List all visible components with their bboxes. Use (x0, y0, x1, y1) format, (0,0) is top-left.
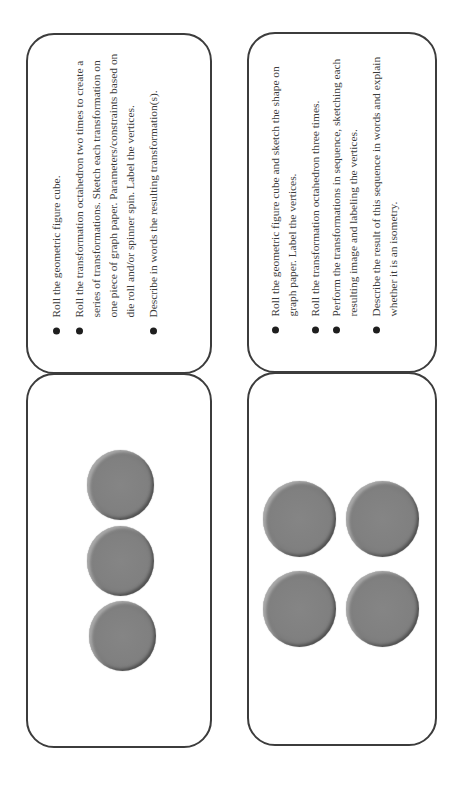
dot-icon (87, 450, 154, 520)
card-1-item-1-text: Roll the geometric figure cube. (50, 175, 62, 317)
bullet-icon (150, 327, 157, 334)
bullet-icon (312, 326, 319, 333)
card-1-item-2: Roll the transformation octahedron two t… (71, 53, 139, 334)
dot-icon (87, 526, 154, 596)
card-1-rotated-content: Roll the geometric figure cube. Roll the… (28, 35, 210, 372)
card-1-item-1: Roll the geometric figure cube. (48, 53, 65, 334)
card-1-item-3-text: Describe in words the resulting transfor… (147, 90, 159, 317)
card-2-item-1-text: Roll the geometric figure cube and sketc… (269, 66, 298, 316)
card-2-item-1: Roll the geometric figure cube and sketc… (267, 48, 301, 333)
card-2-item-2: Roll the transformation octahedron three… (307, 48, 324, 333)
card-2-item-4: Describe the result of this sequence in … (368, 48, 402, 333)
bullet-icon (53, 327, 60, 334)
card-1-instruction-list: Roll the geometric figure cube. Roll the… (48, 53, 162, 334)
dot-icon (89, 601, 156, 671)
card-2-instruction-list: Roll the geometric figure cube and sketc… (267, 48, 402, 333)
dot-icon (263, 481, 336, 557)
card-2-item-2-text: Roll the transformation octahedron three… (309, 100, 321, 316)
card-2-item-3-text: Perform the transformations in sequence,… (330, 58, 359, 316)
bullet-icon (76, 327, 83, 334)
instruction-card-three-transformations: Roll the geometric figure cube and sketc… (247, 32, 437, 373)
dot-card-four (247, 372, 437, 746)
card-2-rotated-content: Roll the geometric figure cube and sketc… (249, 34, 435, 371)
bullet-icon (333, 326, 340, 333)
bullet-icon (272, 326, 279, 333)
dot-icon (346, 481, 419, 557)
instruction-card-two-transformations: Roll the geometric figure cube. Roll the… (26, 33, 212, 374)
dot-icon (263, 571, 336, 647)
bullet-icon (373, 326, 380, 333)
card-1-item-3: Describe in words the resulting transfor… (145, 53, 162, 334)
card-1-item-2-text: Roll the transformation octahedron two t… (73, 53, 136, 317)
card-2-item-4-text: Describe the result of this sequence in … (370, 56, 399, 316)
dot-icon (346, 571, 419, 647)
card-2-item-3: Perform the transformations in sequence,… (328, 48, 362, 333)
